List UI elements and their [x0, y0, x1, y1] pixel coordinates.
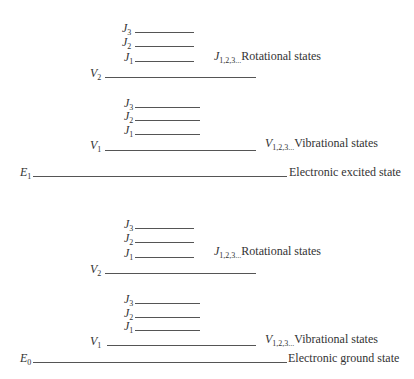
v2-level-line	[105, 77, 256, 78]
rotational-states-label: J1,2,3...Rotational states	[214, 245, 321, 262]
j2-level-line	[135, 120, 200, 121]
j2-level-line	[135, 242, 194, 243]
v1-label: V1	[90, 139, 101, 156]
j3-level-line	[135, 107, 200, 108]
e1-label: E1	[20, 166, 31, 183]
vibrational-states-label: V1,2,3...Vibrational states	[265, 137, 378, 154]
j3-level-line	[135, 228, 194, 229]
electronic-excited-state-label: Electronic excited state	[289, 166, 401, 178]
e1-level-line	[33, 176, 287, 177]
v1-level-line	[107, 345, 256, 346]
electronic-ground-state-label: Electronic ground state	[288, 352, 399, 364]
j1-label: J1	[124, 320, 133, 337]
rotational-states-label: J1,2,3...Rotational states	[214, 50, 321, 67]
e0-label: E0	[20, 352, 31, 369]
v2-label: V2	[90, 67, 101, 84]
v1-level-line	[105, 150, 256, 151]
j1-level-line	[135, 257, 194, 258]
j3-level-line	[135, 303, 200, 304]
vibrational-states-label: V1,2,3...Vibrational states	[265, 333, 378, 350]
e0-level-line	[33, 362, 287, 363]
j3-level-line	[135, 32, 194, 33]
j1-level-line	[135, 330, 200, 331]
j2-level-line	[135, 46, 194, 47]
j1-label: J1	[124, 124, 133, 141]
j2-level-line	[135, 317, 200, 318]
j1-level-line	[135, 61, 194, 62]
j1-level-line	[135, 134, 200, 135]
v2-label: V2	[90, 263, 101, 280]
v1-label: V1	[90, 335, 101, 352]
v2-level-line	[105, 273, 256, 274]
j1-label: J1	[124, 247, 133, 264]
j1-label: J1	[124, 51, 133, 68]
